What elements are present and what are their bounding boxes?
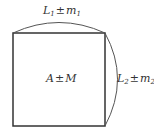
diagram-canvas: L1±m1 L2±m2 A±M bbox=[0, 0, 154, 136]
right-dimension-arc bbox=[105, 33, 118, 126]
right-side-label: L2±m2 bbox=[117, 73, 154, 86]
diagram-shapes bbox=[0, 0, 154, 136]
top-dimension-arc bbox=[13, 23, 105, 34]
area-label: A±M bbox=[46, 73, 76, 84]
top-side-label: L1±m1 bbox=[43, 5, 81, 18]
